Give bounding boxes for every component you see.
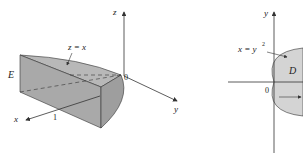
right-figure: y x = y 2 D 0 [228, 8, 303, 153]
region-label-d: D [288, 65, 297, 76]
origin-label-left: 0 [124, 73, 128, 82]
y-axis [124, 76, 177, 101]
tick-label-1: 1 [53, 113, 57, 122]
x-axis-label-left: x [13, 114, 18, 124]
y-axis-label-right: y [263, 8, 268, 18]
surface-label: z = x [67, 42, 86, 52]
curve-label: x = y [237, 44, 257, 54]
y-axis-label-left: y [173, 104, 178, 114]
figure-canvas: z z = x E 0 x 1 y y x = y 2 D 0 [0, 0, 303, 153]
origin-label-right: 0 [265, 86, 269, 95]
region-label-e: E [7, 69, 14, 80]
z-axis-label: z [112, 7, 117, 17]
curve-exponent: 2 [262, 41, 265, 47]
left-figure: z z = x E 0 x 1 y [7, 7, 178, 128]
